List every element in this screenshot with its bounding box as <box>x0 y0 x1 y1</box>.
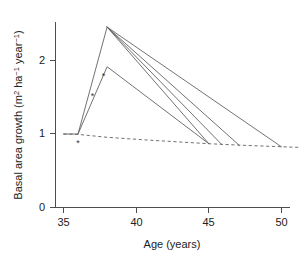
series-decline-return-age-46 <box>107 27 222 145</box>
x-tick-label-35: 35 <box>57 216 69 228</box>
series-baseline-undisturbed <box>64 134 299 147</box>
x-axis-title: Age (years) <box>144 238 201 250</box>
basal-area-growth-chart: 0 1 2 35 40 45 50 Age (years) Basal area… <box>0 0 307 259</box>
y-axis-title-suffix: ) <box>12 30 24 34</box>
y-axis-title: Basal area growth (m2 ha−1 year−1) <box>12 30 25 199</box>
y-axis-ticks: 0 1 2 <box>39 54 56 213</box>
series-lower-response-curve <box>78 67 209 144</box>
x-tick-label-45: 45 <box>202 216 214 228</box>
series-decline-return-age-45 <box>107 27 209 144</box>
y-axis-title-mid: ha <box>12 75 24 91</box>
x-tick-label-40: 40 <box>130 216 142 228</box>
x-tick-label-50: 50 <box>275 216 287 228</box>
y-axis-title-prefix: Basal area growth (m <box>12 95 24 200</box>
y-axis-title-sup-ha: −1 <box>12 67 21 76</box>
data-point-marker-2: * <box>102 71 106 81</box>
figure-container: 0 1 2 35 40 45 50 Age (years) Basal area… <box>0 0 307 259</box>
y-tick-label-1: 1 <box>39 127 45 139</box>
y-axis-title-sup-year: −1 <box>12 34 21 43</box>
series-decline-return-age-47 <box>107 27 239 145</box>
y-tick-label-0: 0 <box>39 201 45 213</box>
data-marker-layer: *** <box>76 71 105 148</box>
y-axis-title-mid2: year <box>12 42 24 67</box>
data-point-marker-0: * <box>76 138 80 148</box>
x-axis-ticks: 35 40 45 50 <box>57 208 287 229</box>
data-point-marker-1: * <box>91 91 95 101</box>
series-layer <box>64 27 299 147</box>
y-tick-label-2: 2 <box>39 54 45 66</box>
